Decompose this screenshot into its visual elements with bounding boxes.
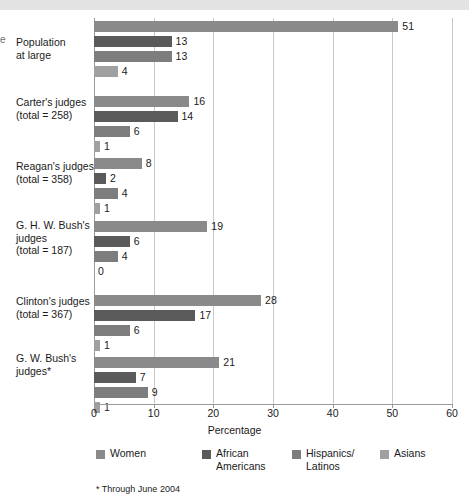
bar — [94, 51, 172, 62]
bar-value-label: 0 — [98, 265, 104, 277]
category-label-line: judges — [16, 232, 92, 245]
category-label-line: Population — [16, 36, 92, 49]
bar-row: 21 — [94, 357, 452, 368]
legend-swatch — [202, 450, 211, 459]
category-label: Clinton's judges(total = 367) — [16, 295, 92, 320]
bar-row: 16 — [94, 96, 452, 107]
bar-value-label: 7 — [140, 371, 146, 383]
bar — [94, 372, 136, 383]
category-label-line: Reagan's judges — [16, 160, 92, 173]
bar — [94, 325, 130, 336]
bar — [94, 66, 118, 77]
bar-row: 17 — [94, 310, 452, 321]
category-label: Carter's judges(total = 258) — [16, 96, 92, 121]
legend-label: Asians — [394, 447, 426, 460]
bar — [94, 203, 100, 214]
bar — [94, 141, 100, 152]
bar-value-label: 16 — [193, 95, 205, 107]
bar-value-label: 19 — [211, 220, 223, 232]
x-tick-label-30: 30 — [267, 407, 279, 419]
bar — [94, 387, 148, 398]
bar-row: 51 — [94, 21, 452, 32]
bar-row: 14 — [94, 111, 452, 122]
category-label-line: (total = 187) — [16, 244, 92, 257]
bar-row: 1 — [94, 141, 452, 152]
legend-label: Hispanics/Latinos — [306, 447, 354, 472]
x-tick-label-10: 10 — [148, 407, 160, 419]
bar-group: 161461 — [94, 96, 452, 156]
legend-swatch — [380, 450, 389, 459]
bar — [94, 251, 118, 262]
bar — [94, 357, 219, 368]
bar — [94, 310, 195, 321]
category-label-line: (total = 258) — [16, 109, 92, 122]
bar-row: 13 — [94, 36, 452, 47]
bar-value-label: 4 — [122, 250, 128, 262]
bar-row: 6 — [94, 325, 452, 336]
bar-value-label: 1 — [104, 401, 110, 413]
bar-value-label: 21 — [223, 356, 235, 368]
category-label-line: (total = 358) — [16, 173, 92, 186]
x-tick-label-50: 50 — [386, 407, 398, 419]
category-label: Reagan's judges(total = 358) — [16, 160, 92, 185]
category-label: G. W. Bush'sjudges* — [16, 352, 92, 377]
gridline-60 — [452, 18, 453, 404]
bar-value-label: 13 — [176, 35, 188, 47]
bar-value-label: 9 — [152, 386, 158, 398]
bar-value-label: 1 — [104, 140, 110, 152]
bar-value-label: 1 — [104, 202, 110, 214]
bar-row: 13 — [94, 51, 452, 62]
bar-value-label: 17 — [199, 309, 211, 321]
legend-swatch — [292, 450, 301, 459]
chart-footnote: * Through June 2004 — [96, 484, 180, 494]
bar — [94, 36, 172, 47]
bar — [94, 295, 261, 306]
legend: WomenAfricanAmericansHispanics/LatinosAs… — [96, 449, 426, 483]
chart-page: e Populationat largeCarter's judges(tota… — [0, 0, 469, 500]
bar — [94, 111, 178, 122]
bar-row: 1 — [94, 203, 452, 214]
bar — [94, 158, 142, 169]
legend-label-line: African — [216, 447, 266, 460]
bar-row: 2 — [94, 173, 452, 184]
category-label-line: Carter's judges — [16, 96, 92, 109]
bar-value-label: 6 — [134, 324, 140, 336]
plot-area: 511313416146182411964028176121791 — [94, 18, 452, 404]
bar-value-label: 2 — [110, 172, 116, 184]
bar — [94, 236, 130, 247]
x-axis-title: Percentage — [0, 424, 469, 436]
bar-row: 7 — [94, 372, 452, 383]
category-label: G. H. W. Bush'sjudges(total = 187) — [16, 219, 92, 257]
bar-row: 9 — [94, 387, 452, 398]
bar-row: 4 — [94, 66, 452, 77]
bar-value-label: 6 — [134, 235, 140, 247]
legend-swatch — [96, 450, 105, 459]
bar-group: 281761 — [94, 295, 452, 355]
bar-row: 1 — [94, 340, 452, 351]
bar — [94, 126, 130, 137]
bar-value-label: 4 — [122, 65, 128, 77]
bar-value-label: 14 — [182, 110, 194, 122]
bar-row: 4 — [94, 251, 452, 262]
x-tick-label-20: 20 — [207, 407, 219, 419]
bar — [94, 173, 106, 184]
legend-label: Women — [110, 447, 146, 460]
bar — [94, 221, 207, 232]
left-edge-cropped-glyph: e — [0, 34, 10, 45]
bar-row: 0 — [94, 266, 452, 277]
bar-value-label: 28 — [265, 294, 277, 306]
bar-value-label: 6 — [134, 125, 140, 137]
category-label-line: at large — [16, 49, 92, 62]
category-label-line: (total = 367) — [16, 308, 92, 321]
bar — [94, 188, 118, 199]
bar-row: 4 — [94, 188, 452, 199]
bar — [94, 96, 189, 107]
x-tick-label-40: 40 — [327, 407, 339, 419]
legend-label-line: Asians — [394, 447, 426, 460]
bar-row: 6 — [94, 126, 452, 137]
bar-value-label: 8 — [146, 157, 152, 169]
x-tick-label-60: 60 — [446, 407, 458, 419]
category-label: Populationat large — [16, 36, 92, 61]
bar-group: 5113134 — [94, 21, 452, 81]
bar — [94, 340, 100, 351]
